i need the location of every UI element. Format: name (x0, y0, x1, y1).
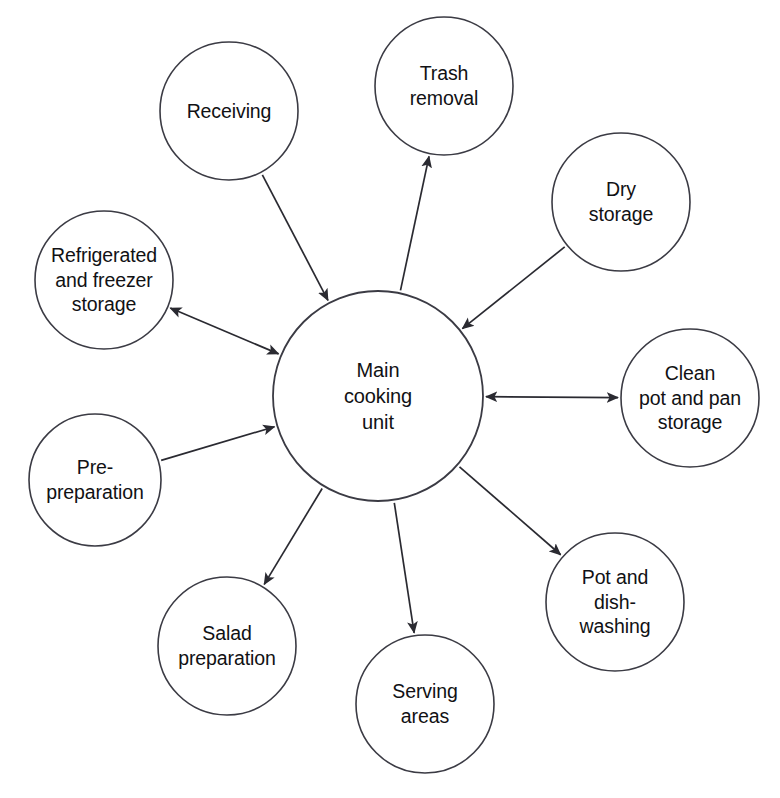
node-circle-pot-and-dish-washing[interactable] (546, 533, 684, 671)
node-circle-clean-pot-and-pan-storage[interactable] (621, 329, 759, 467)
node-circle-serving-areas[interactable] (356, 635, 494, 773)
connector-salad-preparation (264, 488, 322, 584)
node-circle-dry-storage[interactable] (552, 133, 690, 271)
kitchen-workflow-diagram: Main cooking unitReceivingTrash removalD… (0, 0, 780, 798)
connector-pre-preparation (161, 427, 274, 461)
node-circle-refrigerated-and-freezer-storage[interactable] (35, 211, 173, 349)
connector-dry-storage (462, 247, 564, 329)
diagram-canvas (0, 0, 780, 798)
node-circle-salad-preparation[interactable] (158, 577, 296, 715)
connector-trash-removal (400, 156, 429, 290)
node-circle-pre-preparation[interactable] (29, 414, 161, 546)
connector-receiving (262, 175, 328, 300)
connector-refrigerated-and-freezer-storage (170, 308, 278, 354)
connector-clean-pot-and-pan-storage (486, 397, 618, 398)
node-circle-layer (29, 17, 759, 773)
connector-serving-areas (394, 503, 414, 633)
node-circle-trash-removal[interactable] (375, 17, 513, 155)
node-circle-main-cooking-unit[interactable] (273, 291, 483, 501)
connector-pot-and-dish-washing (460, 467, 561, 555)
node-circle-receiving[interactable] (160, 42, 298, 180)
